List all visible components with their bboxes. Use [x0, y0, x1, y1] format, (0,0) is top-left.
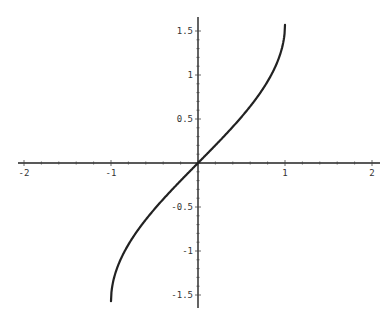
y-tick-label: -1 [182, 246, 193, 256]
y-tick-label: 1.5 [177, 26, 193, 36]
y-tick-label: 1 [188, 70, 193, 80]
y-tick-label: -0.5 [171, 202, 193, 212]
arcsin-plot: -2-1121.510.5-0.5-1-1.5 [0, 0, 384, 325]
y-tick-label: -1.5 [171, 290, 193, 300]
x-tick-label: 1 [282, 168, 287, 178]
x-tick-label: -2 [19, 168, 30, 178]
y-tick-label: 0.5 [177, 114, 193, 124]
x-tick-label: -1 [106, 168, 117, 178]
x-tick-label: 2 [369, 168, 374, 178]
